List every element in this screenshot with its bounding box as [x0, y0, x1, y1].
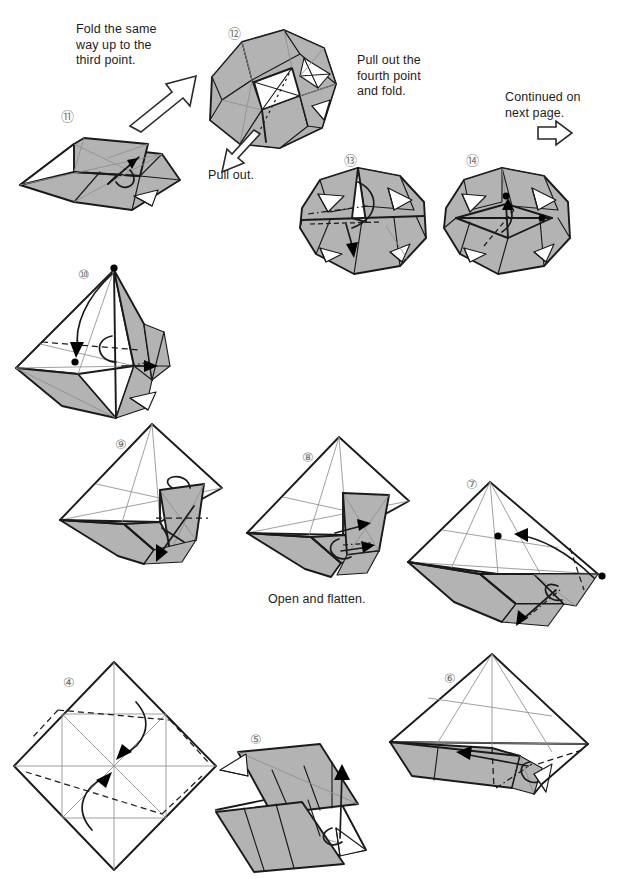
- step-9: [56, 432, 236, 572]
- reference-dot: [71, 358, 78, 365]
- reference-dot: [539, 215, 546, 222]
- reference-dot: [494, 532, 501, 539]
- reference-dot: [598, 572, 605, 579]
- diagram-page: Fold the same way up to the third point.…: [0, 0, 618, 879]
- caption-pull-out: Pull out.: [208, 168, 254, 184]
- step-14: [440, 166, 580, 276]
- reference-dot: [110, 264, 117, 271]
- hollow-arrow-icon-right: [536, 119, 576, 147]
- step-10: [16, 258, 236, 423]
- step-4: [12, 658, 222, 873]
- step-7: [398, 478, 618, 628]
- caption-open-flatten: Open and flatten.: [268, 592, 366, 608]
- step-5: [216, 742, 396, 872]
- step-6: [382, 652, 608, 822]
- caption-continued: Continued on next page.: [505, 90, 618, 121]
- caption-fold-third-point: Fold the same way up to the third point.: [76, 22, 206, 69]
- step-13: [296, 166, 436, 276]
- step-8: [243, 445, 423, 585]
- caption-pull-out-fourth: Pull out the fourth point and fold.: [357, 53, 477, 100]
- reference-dot: [503, 193, 510, 200]
- step-11: [12, 110, 187, 215]
